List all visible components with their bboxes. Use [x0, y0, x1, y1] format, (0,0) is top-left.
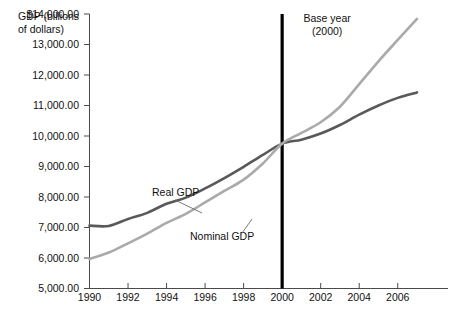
x-tick-label: 1998: [232, 291, 256, 303]
x-tick-label: 1994: [155, 291, 179, 303]
y-tick-label: 7,000.00: [38, 221, 79, 233]
x-tick-label: 2006: [386, 291, 410, 303]
series-label-real-gdp: Real GDP: [152, 186, 199, 198]
series-label-nominal-gdp: Nominal GDP: [190, 230, 254, 242]
gdp-chart-figure: GDP (billions of dollars) 5,000.006,000.…: [0, 0, 468, 327]
y-tick-label: 12,000.00: [32, 69, 79, 81]
x-tick-label: 1990: [78, 291, 102, 303]
y-tick-label: 8,000.00: [38, 191, 79, 203]
y-tick-label: 11,000.00: [33, 99, 79, 111]
series-labels-group: Real GDPNominal GDP: [152, 186, 254, 242]
x-tick-label: 1992: [116, 291, 140, 303]
x-tick-label: 1996: [193, 291, 217, 303]
y-tick-label: $14,000.00: [26, 8, 79, 20]
y-tick-label: 6,000.00: [38, 252, 79, 264]
y-tick-label: 13,000.00: [32, 38, 79, 50]
x-tick-label: 2002: [309, 291, 333, 303]
y-tick-label: 5,000.00: [38, 282, 79, 294]
x-tick-label: 2000: [270, 291, 294, 303]
gdp-line-chart: GDP (billions of dollars) 5,000.006,000.…: [0, 0, 468, 327]
series-group: [90, 19, 418, 259]
annotation-base-year-line-1: Base year: [304, 12, 352, 24]
annotation-group: Base year(2000): [304, 12, 352, 37]
y-axis-title-line-2: of dollars): [18, 23, 64, 35]
y-tick-label: 10,000.00: [32, 130, 79, 142]
x-tick-label: 2004: [348, 291, 372, 303]
series-line-nominal-gdp: [90, 19, 418, 259]
y-tick-label: 9,000.00: [38, 160, 79, 172]
series-line-real-gdp: [90, 92, 418, 226]
annotation-base-year-line-2: (2000): [312, 25, 342, 37]
y-axis-ticks: 5,000.006,000.007,000.008,000.009,000.00…: [26, 8, 89, 295]
x-axis-ticks: 199019921994199619982000200220042006: [78, 283, 410, 303]
